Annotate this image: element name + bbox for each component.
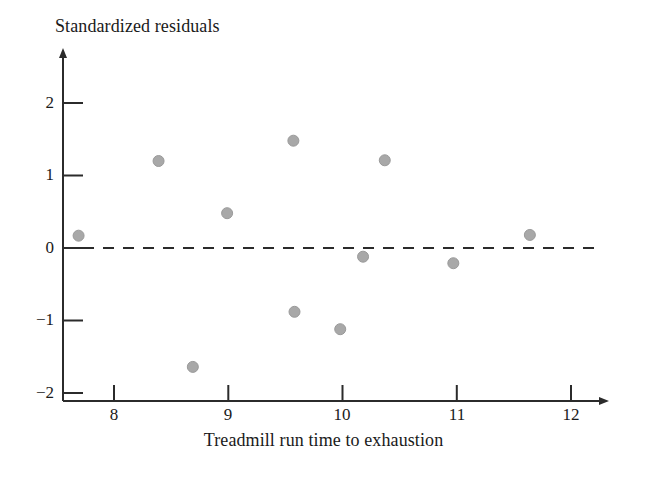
scatter-point (289, 306, 300, 317)
x-tick-label-12: 12 (551, 405, 591, 425)
x-axis-title: Treadmill run time to exhaustion (0, 430, 647, 451)
x-tick-label-8: 8 (94, 405, 134, 425)
scatter-point (524, 229, 535, 240)
y-tick-label-1: 1 (14, 165, 54, 185)
scatter-point (448, 258, 459, 269)
x-tick-label-10: 10 (322, 405, 362, 425)
x-axis-ticks (114, 385, 571, 401)
scatter-point (153, 156, 164, 167)
y-tick-label-2: 2 (14, 93, 54, 113)
scatter-point (335, 324, 346, 335)
scatter-point (379, 155, 390, 166)
residual-plot-figure: Standardized residuals (0, 0, 647, 479)
y-tick-label-0: 0 (14, 238, 54, 258)
x-tick-label-11: 11 (437, 405, 477, 425)
scatter-point (73, 230, 84, 241)
scatter-point (222, 208, 233, 219)
y-tick-label-neg2: −2 (14, 383, 54, 403)
scatter-point-group (73, 135, 535, 372)
scatter-point (187, 361, 198, 372)
y-tick-label-neg1: −1 (14, 310, 54, 330)
scatter-point (358, 251, 369, 262)
x-tick-label-9: 9 (208, 405, 248, 425)
scatter-point (288, 135, 299, 146)
